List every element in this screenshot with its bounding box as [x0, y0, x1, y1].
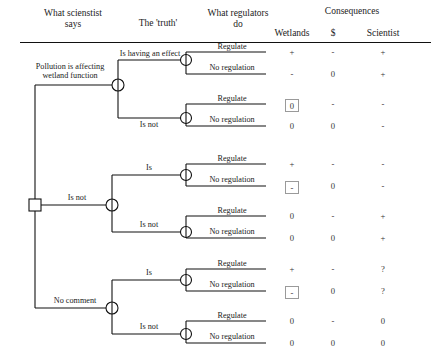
leaf-action-9: Regulate [192, 259, 272, 268]
consequence-money-10: 0 [320, 286, 346, 296]
branch1-truthA-label-text: Is having an effect [120, 49, 181, 58]
branch1-truthA-label: Is having an effect [114, 49, 186, 58]
branch1-say-label: Pollution is affecting wetland function [14, 62, 126, 80]
leaf-action-2-text: No regulation [209, 63, 254, 72]
branch2-truthA-label-text: Is [146, 163, 152, 172]
leaf-action-1-text: Regulate [217, 42, 246, 51]
consequence-money-11-text: - [332, 316, 335, 326]
consequence-wetlands-10-text: - [291, 288, 294, 298]
leaf-action-11: Regulate [192, 311, 272, 320]
consequence-wetlands-5-text: + [290, 159, 295, 169]
consequence-money-5: - [320, 159, 346, 169]
consequence-money-9: - [320, 264, 346, 274]
branch1-truthB-label-text: Is not [140, 120, 158, 129]
consequence-wetlands-2-text: - [291, 69, 294, 79]
consequence-wetlands-6: - [285, 181, 299, 194]
branch2-truthA-label: Is [124, 163, 174, 172]
consequence-scientist-10-text: ? [381, 286, 385, 296]
leaf-action-6: No regulation [192, 175, 272, 184]
leaf-action-3-text: Regulate [217, 94, 246, 103]
consequence-scientist-7: + [370, 211, 396, 221]
consequence-money-6: 0 [320, 181, 346, 191]
consequence-scientist-3: - [370, 99, 396, 109]
consequence-money-10-text: 0 [331, 286, 335, 296]
branch3-say-label: No comment [42, 296, 108, 305]
consequence-scientist-2: + [370, 69, 396, 79]
branch3-truthA-label-text: Is [146, 268, 152, 277]
leaf-action-7: Regulate [192, 206, 272, 215]
consequence-money-11: - [320, 316, 346, 326]
leaf-action-11-text: Regulate [217, 311, 246, 320]
branch3-truthB-label: Is not [124, 322, 174, 331]
consequence-money-3: - [320, 99, 346, 109]
consequence-money-4: 0 [320, 121, 346, 131]
consequence-wetlands-6-text: - [291, 183, 294, 193]
leaf-action-8: No regulation [192, 227, 272, 236]
consequence-wetlands-7-text: 0 [290, 211, 294, 221]
branch2-say-label-text: Is not [68, 193, 86, 202]
consequence-wetlands-1: + [279, 47, 305, 57]
consequence-scientist-1: + [370, 47, 396, 57]
leaf-action-6-text: No regulation [209, 175, 254, 184]
consequence-money-12-text: 0 [331, 338, 335, 348]
consequence-scientist-4-text: - [382, 121, 385, 131]
consequence-money-2: 0 [320, 69, 346, 79]
consequence-money-4-text: 0 [331, 121, 335, 131]
consequence-scientist-9: ? [370, 264, 396, 274]
leaf-action-4-text: No regulation [209, 115, 254, 124]
consequence-money-1-text: - [332, 47, 335, 57]
consequence-scientist-8-text: + [381, 233, 386, 243]
branch1-truthB-label: Is not [124, 120, 174, 129]
consequence-money-3-text: - [332, 99, 335, 109]
branch1-say-label-line1: Pollution is affecting [14, 62, 126, 71]
consequence-money-8: 0 [320, 233, 346, 243]
leaf-action-10: No regulation [192, 280, 272, 289]
consequence-wetlands-12: 0 [279, 338, 305, 348]
leaf-action-12: No regulation [192, 332, 272, 341]
leaf-action-9-text: Regulate [217, 259, 246, 268]
consequence-wetlands-3: 0 [285, 99, 299, 112]
consequence-money-6-text: 0 [331, 181, 335, 191]
consequence-wetlands-5: + [279, 159, 305, 169]
leaf-action-7-text: Regulate [217, 206, 246, 215]
branch2-truthB-label: Is not [124, 220, 174, 229]
consequence-scientist-9-text: ? [381, 264, 385, 274]
consequence-wetlands-4-text: 0 [290, 121, 294, 131]
consequence-money-7: - [320, 211, 346, 221]
leaf-action-5: Regulate [192, 154, 272, 163]
consequence-scientist-1-text: + [381, 47, 386, 57]
consequence-wetlands-2: - [279, 69, 305, 79]
consequence-scientist-12: 0 [370, 338, 396, 348]
figure-canvas: What scienstist says The 'truth' What re… [0, 0, 434, 358]
leaf-action-10-text: No regulation [209, 280, 254, 289]
consequence-scientist-11: 0 [370, 316, 396, 326]
branch3-say-label-text: No comment [54, 296, 97, 305]
consequence-wetlands-1-text: + [290, 47, 295, 57]
consequence-scientist-3-text: - [382, 99, 385, 109]
consequence-wetlands-9: + [279, 264, 305, 274]
consequence-scientist-6-text: - [382, 181, 385, 191]
consequence-scientist-2-text: + [381, 69, 386, 79]
leaf-action-4: No regulation [192, 115, 272, 124]
consequence-money-7-text: - [332, 211, 335, 221]
consequence-wetlands-4: 0 [279, 121, 305, 131]
leaf-action-1: Regulate [192, 42, 272, 51]
branch1-say-label-line2: wetland function [14, 71, 126, 80]
consequence-scientist-8: + [370, 233, 396, 243]
consequence-wetlands-9-text: + [290, 264, 295, 274]
consequence-scientist-4: - [370, 121, 396, 131]
consequence-wetlands-8-text: 0 [290, 233, 294, 243]
consequence-scientist-5-text: - [382, 159, 385, 169]
branch2-say-label: Is not [46, 193, 108, 202]
consequence-wetlands-11: 0 [279, 316, 305, 326]
consequence-money-9-text: - [332, 264, 335, 274]
consequence-scientist-10: ? [370, 286, 396, 296]
branch3-truthB-label-text: Is not [140, 322, 158, 331]
consequence-wetlands-7: 0 [279, 211, 305, 221]
consequence-wetlands-10: - [285, 286, 299, 299]
consequence-money-1: - [320, 47, 346, 57]
consequence-scientist-6: - [370, 181, 396, 191]
consequence-money-12: 0 [320, 338, 346, 348]
consequence-money-2-text: 0 [331, 69, 335, 79]
leaf-action-2: No regulation [192, 63, 272, 72]
